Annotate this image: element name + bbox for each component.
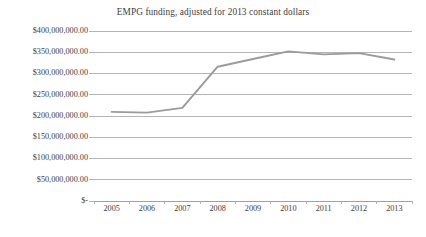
x-axis-tick-label: 2005 xyxy=(94,204,129,213)
y-axis-tick-label: $50,000,000.00 xyxy=(2,175,88,184)
y-axis-tick-label: $350,000,000.00 xyxy=(2,47,88,56)
y-axis-tick-label: $400,000,000.00 xyxy=(2,26,88,35)
tickmarks-group xyxy=(89,31,412,204)
y-axis-tick-label: $200,000,000.00 xyxy=(2,111,88,120)
x-axis-tick-label: 2008 xyxy=(200,204,235,213)
y-axis-tick-label: $- xyxy=(2,196,88,205)
chart-figure: EMPG funding, adjusted for 2013 constant… xyxy=(0,0,426,237)
y-axis-tick-label: $300,000,000.00 xyxy=(2,68,88,77)
y-axis-tick-label: $250,000,000.00 xyxy=(2,90,88,99)
x-axis-tick-label: 2006 xyxy=(129,204,164,213)
y-axis-tick-label: $150,000,000.00 xyxy=(2,132,88,141)
x-axis-tick-label: 2013 xyxy=(377,204,412,213)
x-axis-tick-label: 2011 xyxy=(306,204,341,213)
x-axis-tick-label: 2007 xyxy=(165,204,200,213)
data-series-line xyxy=(112,51,395,112)
x-axis-tick-label: 2010 xyxy=(271,204,306,213)
gridlines-group xyxy=(94,31,412,201)
x-axis-tick-label: 2012 xyxy=(341,204,376,213)
y-axis-tick-label: $100,000,000.00 xyxy=(2,153,88,162)
x-axis-tick-label: 2009 xyxy=(235,204,270,213)
